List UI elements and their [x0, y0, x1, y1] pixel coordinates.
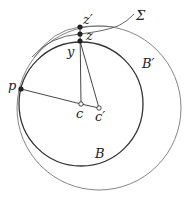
- label-b-prime: B′: [141, 56, 155, 71]
- segment-y-c-prime: [80, 41, 99, 108]
- label-c: c: [76, 106, 84, 121]
- point-p: [18, 86, 23, 91]
- point-y: [77, 38, 82, 43]
- label-sigma: Σ: [135, 8, 146, 23]
- label-z: z: [85, 28, 93, 43]
- point-z-prime: [77, 24, 82, 29]
- point-z: [77, 31, 82, 36]
- label-c-prime: c′: [95, 109, 105, 124]
- label-y: y: [66, 44, 75, 59]
- segment-p-c: [21, 89, 81, 104]
- label-b: B: [94, 146, 105, 161]
- label-p: p: [8, 78, 17, 93]
- segment-c-c-prime: [81, 104, 99, 108]
- label-z-prime: z′: [82, 12, 93, 27]
- diagram-canvas: z′ z y Σ B′ p c c′ B: [0, 0, 188, 203]
